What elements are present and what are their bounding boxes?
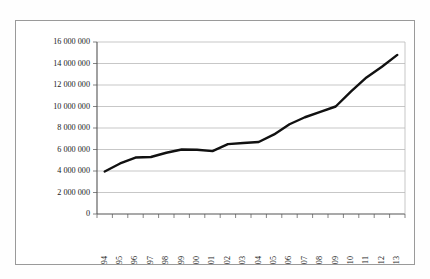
chart-frame: 02 000 0004 000 0006 000 0008 000 00010 … — [15, 20, 415, 265]
x-tick-label: 2013 — [392, 256, 401, 264]
y-tick-label: 14 000 000 — [53, 59, 90, 68]
x-tick-label: 1997 — [146, 256, 155, 264]
x-tick-label: 2010 — [346, 256, 355, 264]
x-tick-label: 2002 — [223, 256, 232, 264]
x-axis-tick-marks — [97, 214, 405, 218]
x-tick-label: 2012 — [377, 256, 386, 264]
y-tick-label: 10 000 000 — [53, 102, 90, 111]
y-tick-label: 12 000 000 — [53, 80, 90, 89]
x-tick-label: 2000 — [192, 256, 201, 264]
y-tick-label: 16 000 000 — [53, 37, 90, 46]
data-series-line — [105, 55, 398, 172]
x-tick-label: 2005 — [269, 256, 278, 264]
y-tick-label: 8 000 000 — [57, 123, 90, 132]
x-tick-label: 1998 — [161, 256, 170, 264]
x-tick-label: 2008 — [315, 256, 324, 264]
x-tick-label: 1999 — [177, 256, 186, 264]
x-axis-tick-labels: 1994199519961997199819992000200120022003… — [100, 256, 402, 264]
y-axis-tick-labels: 02 000 0004 000 0006 000 0008 000 00010 … — [53, 37, 97, 218]
x-tick-label: 2007 — [300, 256, 309, 264]
y-tick-label: 2 000 000 — [57, 188, 90, 197]
y-tick-label: 6 000 000 — [57, 145, 90, 154]
gridlines-group — [97, 42, 405, 193]
x-tick-label: 2011 — [361, 256, 370, 264]
x-tick-label: 1995 — [115, 256, 124, 264]
x-tick-label: 1996 — [130, 256, 139, 264]
x-tick-label: 2003 — [238, 256, 247, 264]
line-chart: 02 000 0004 000 0006 000 0008 000 00010 … — [16, 21, 414, 264]
x-tick-label: 2004 — [254, 256, 263, 264]
x-tick-label: 2006 — [284, 256, 293, 264]
figure-root: 02 000 0004 000 0006 000 0008 000 00010 … — [0, 0, 430, 279]
y-tick-label: 0 — [86, 209, 90, 218]
x-tick-label: 2009 — [331, 256, 340, 264]
x-tick-label: 1994 — [100, 256, 109, 264]
y-tick-label: 4 000 000 — [57, 166, 90, 175]
x-tick-label: 2001 — [207, 256, 216, 264]
